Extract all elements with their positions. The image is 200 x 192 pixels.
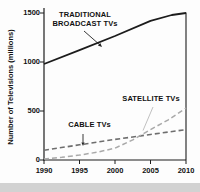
bottom-gray-strip <box>0 183 200 192</box>
x-tick-label: 2005 <box>138 166 164 175</box>
satellite-label: SATELLITE TVs <box>114 95 188 104</box>
x-tick-label: 2010 <box>173 166 199 175</box>
tv-ownership-line-chart: Number of Televisions (millions) TRADITI… <box>0 0 200 192</box>
traditional-label-line2: BROADCAST TVs <box>45 20 125 29</box>
cable-label: CABLE TVs <box>59 121 120 130</box>
x-tick-label: 2000 <box>102 166 128 175</box>
satellite-line <box>44 108 186 159</box>
y-tick-label: 500 <box>2 106 40 115</box>
x-tick-label: 1995 <box>67 166 93 175</box>
y-tick-label: 1500 <box>2 8 40 17</box>
y-axis-title: Number of Televisions (millions) <box>6 29 15 144</box>
x-tick-label: 1990 <box>31 166 57 175</box>
y-tick-label: 1000 <box>2 57 40 66</box>
y-tick-label: 0 <box>2 155 40 164</box>
cable-line <box>44 130 186 151</box>
satellite-leader-line <box>143 107 153 131</box>
traditional-broadcast-label: TRADITIONAL BROADCAST TVs <box>45 11 125 28</box>
